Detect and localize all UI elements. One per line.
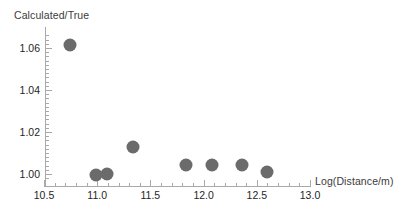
x-tick-minor	[65, 183, 66, 186]
x-tick-minor	[172, 183, 173, 186]
x-tick-minor	[108, 183, 109, 186]
y-tick-label: 1.06	[0, 42, 40, 54]
y-tick-minor	[46, 157, 49, 158]
data-point	[235, 159, 248, 172]
x-tick-minor	[182, 183, 183, 186]
y-tick-minor	[46, 98, 49, 99]
x-tick-minor	[193, 183, 194, 186]
y-tick-major	[46, 48, 52, 49]
x-tick-major	[257, 180, 258, 186]
x-tick-minor	[129, 183, 130, 186]
x-tick-label: 12.5	[247, 189, 267, 201]
y-tick-minor	[46, 40, 49, 41]
y-tick-minor	[46, 94, 49, 95]
x-tick-minor	[299, 183, 300, 186]
y-tick-minor	[46, 161, 49, 162]
y-tick-minor	[46, 178, 49, 179]
y-tick-minor	[46, 35, 49, 36]
y-tick-minor	[46, 124, 49, 125]
y-tick-major	[46, 132, 52, 133]
data-point	[261, 165, 274, 178]
x-tick-minor	[246, 183, 247, 186]
x-tick-label: 10.5	[34, 189, 54, 201]
x-tick-minor	[161, 183, 162, 186]
y-tick-minor	[46, 65, 49, 66]
x-tick-minor	[119, 183, 120, 186]
y-tick-label: 1.04	[0, 84, 40, 96]
x-tick-major	[150, 180, 151, 186]
y-tick-minor	[46, 52, 49, 53]
y-tick-minor	[46, 103, 49, 104]
y-tick-minor	[46, 149, 49, 150]
y-tick-minor	[46, 119, 49, 120]
x-tick-label: 12.0	[193, 189, 213, 201]
y-tick-minor	[46, 166, 49, 167]
y-tick-minor	[46, 44, 49, 45]
x-tick-minor	[214, 183, 215, 186]
y-tick-minor	[46, 82, 49, 83]
y-tick-minor	[46, 140, 49, 141]
y-tick-major	[46, 90, 52, 91]
x-tick-minor	[55, 183, 56, 186]
y-tick-major	[46, 174, 52, 175]
y-tick-minor	[46, 145, 49, 146]
data-point	[206, 159, 219, 172]
x-tick-minor	[267, 183, 268, 186]
x-tick-label: 11.5	[141, 189, 161, 201]
y-tick-minor	[46, 115, 49, 116]
y-tick-minor	[46, 56, 49, 57]
data-point	[63, 39, 76, 52]
y-tick-minor	[46, 107, 49, 108]
y-tick-minor	[46, 136, 49, 137]
x-tick-minor	[140, 183, 141, 186]
x-tick-minor	[278, 183, 279, 186]
data-point	[100, 168, 113, 181]
x-tick-minor	[76, 183, 77, 186]
data-point	[179, 159, 192, 172]
x-tick-major	[204, 180, 205, 186]
y-tick-label: 1.02	[0, 126, 40, 138]
y-tick-label: 1.00	[0, 168, 40, 180]
x-tick-minor	[236, 183, 237, 186]
y-tick-minor	[46, 73, 49, 74]
y-tick-minor	[46, 86, 49, 87]
y-tick-minor	[46, 128, 49, 129]
y-tick-minor	[46, 61, 49, 62]
x-tick-minor	[289, 183, 290, 186]
x-tick-label: 11.0	[87, 189, 107, 201]
y-tick-minor	[46, 170, 49, 171]
data-point	[127, 141, 140, 154]
x-tick-major	[44, 180, 45, 186]
plot-area: 10.511.011.512.012.513.0 1.001.021.041.0…	[0, 0, 404, 215]
x-tick-minor	[87, 183, 88, 186]
x-axis-line	[44, 186, 311, 187]
y-tick-minor	[46, 111, 49, 112]
chart-figure: Calculated/True Log(Distance/m) 10.511.0…	[0, 0, 404, 215]
x-tick-label: 13.0	[300, 189, 320, 201]
y-tick-minor	[46, 153, 49, 154]
x-tick-minor	[225, 183, 226, 186]
x-tick-major	[310, 180, 311, 186]
y-tick-minor	[46, 77, 49, 78]
y-tick-minor	[46, 69, 49, 70]
